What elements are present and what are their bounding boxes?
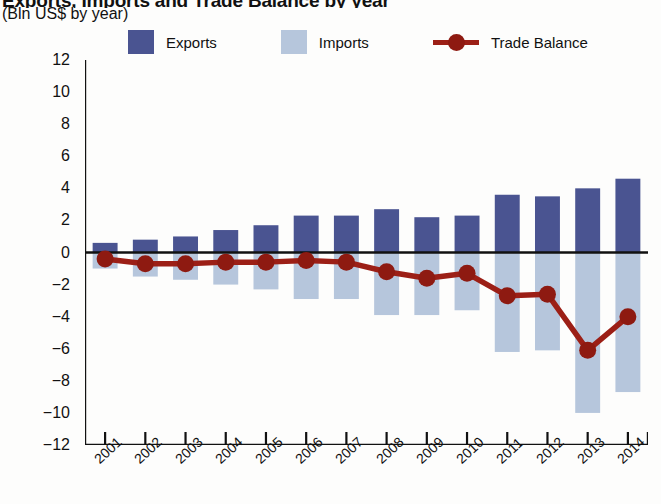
- chart-root: Exports, Imports and Trade Balance by ye…: [0, 0, 661, 504]
- trade-balance-point: [418, 270, 435, 287]
- legend-item-trade-balance[interactable]: Trade Balance: [433, 31, 588, 53]
- trade-balance-point: [619, 308, 636, 325]
- chart-subtitle: (Bln US$ by year): [2, 5, 128, 23]
- bar-exports: [495, 195, 520, 253]
- chart-legend: Exports Imports Trade Balance: [128, 30, 588, 54]
- trade-balance-point: [177, 255, 194, 272]
- bar-exports: [334, 216, 359, 253]
- bar-exports: [173, 236, 198, 252]
- trade-balance-point: [499, 287, 516, 304]
- y-axis-tick-label: 6: [18, 147, 70, 165]
- bar-exports: [615, 179, 640, 253]
- y-axis-tick-label: 0: [18, 244, 70, 262]
- y-axis-tick-label: 4: [18, 179, 70, 197]
- trade-balance-point: [217, 254, 234, 271]
- trade-balance-point: [97, 250, 114, 267]
- trade-balance-point: [579, 342, 596, 359]
- bar-exports: [374, 209, 399, 252]
- legend-label-exports: Exports: [166, 34, 217, 51]
- y-axis-tick-label: 12: [18, 51, 70, 69]
- legend-label-imports: Imports: [319, 34, 369, 51]
- chart-canvas: [85, 60, 648, 445]
- legend-swatch-exports-icon: [128, 30, 154, 54]
- y-axis-tick-label: −10: [18, 404, 70, 422]
- plot-area: [85, 60, 648, 445]
- trade-balance-point: [459, 265, 476, 282]
- trade-balance-point: [378, 263, 395, 280]
- trade-balance-point: [338, 254, 355, 271]
- bar-imports: [374, 253, 399, 316]
- y-axis-tick-label: −8: [18, 372, 70, 390]
- bar-exports: [535, 196, 560, 252]
- legend-label-trade-balance: Trade Balance: [491, 34, 588, 51]
- bar-exports: [575, 188, 600, 252]
- y-axis-tick-label: 8: [18, 115, 70, 133]
- trade-balance-point: [137, 255, 154, 272]
- y-axis-tick-label: −6: [18, 340, 70, 358]
- y-axis-tick-label: −2: [18, 276, 70, 294]
- trade-balance-point: [298, 252, 315, 269]
- bar-exports: [133, 240, 158, 253]
- legend-item-exports[interactable]: Exports: [128, 30, 217, 54]
- bar-exports: [455, 216, 480, 253]
- y-axis-tick-label: −4: [18, 308, 70, 326]
- bar-exports: [253, 225, 278, 252]
- y-axis-tick-label: −12: [18, 436, 70, 454]
- trade-balance-point: [257, 254, 274, 271]
- y-axis-tick-label: 2: [18, 211, 70, 229]
- trade-balance-point: [539, 286, 556, 303]
- legend-item-imports[interactable]: Imports: [281, 30, 369, 54]
- legend-line-marker-icon: [433, 31, 479, 53]
- bar-exports: [213, 230, 238, 252]
- legend-swatch-imports-icon: [281, 30, 307, 54]
- y-axis-labels: 121086420−2−4−6−8−10−12: [18, 60, 70, 445]
- y-axis-tick-label: 10: [18, 83, 70, 101]
- bar-exports: [294, 216, 319, 253]
- bar-exports: [414, 217, 439, 252]
- bar-imports: [575, 253, 600, 413]
- x-axis-labels: 2001200220032004200520062007200820092010…: [85, 449, 648, 504]
